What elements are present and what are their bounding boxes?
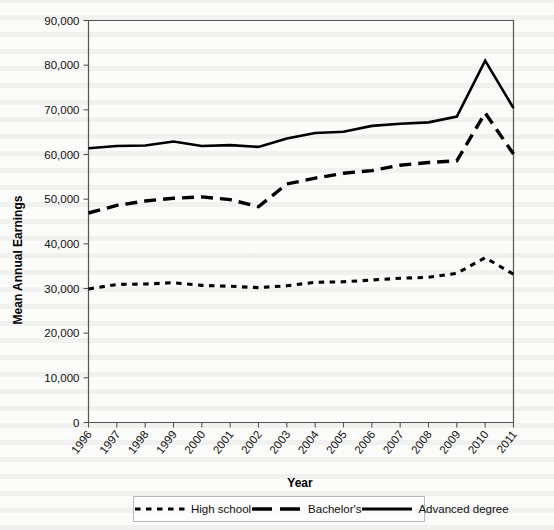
y-tick-label: 50,000 [44, 193, 79, 205]
y-tick-label: 30,000 [44, 283, 79, 295]
x-tick-label: 1998 [126, 428, 151, 456]
y-tick-label: 20,000 [44, 327, 79, 339]
y-tick-label: 60,000 [44, 149, 79, 161]
y-tick-label: 80,000 [44, 59, 79, 71]
x-axis-title: Year [287, 476, 313, 490]
x-tick-label: 2007 [381, 428, 406, 456]
x-tick-label: 2002 [239, 428, 264, 456]
legend-item-bachelors[interactable]: Bachelor's [251, 503, 361, 515]
legend-label-advanced-degree: Advanced degree [418, 503, 508, 515]
x-tick-label: 2000 [182, 428, 207, 456]
legend-swatch-dashed [251, 504, 303, 514]
y-axis-ticks: 010,00020,00030,00040,00050,00060,00070,… [44, 15, 88, 429]
x-tick-label: 2003 [267, 428, 292, 456]
legend-swatch-solid [361, 504, 413, 514]
y-tick-label: 40,000 [44, 238, 79, 250]
y-tick-label: 0 [73, 417, 79, 429]
x-tick-label: 1996 [69, 428, 94, 456]
series-bachelors [89, 113, 514, 213]
chart-svg: 010,00020,00030,00040,00050,00060,00070,… [0, 0, 554, 530]
y-tick-label: 70,000 [44, 104, 79, 116]
legend-label-high-school: High school [191, 503, 251, 515]
x-tick-label: 2005 [324, 428, 349, 456]
series-layer [89, 61, 514, 289]
x-tick-label: 2010 [466, 428, 491, 456]
x-tick-label: 2011 [494, 428, 519, 455]
y-axis-title: Mean Annual Earnings [11, 195, 25, 324]
chart-legend: High school Bachelor's Advanced degree [133, 496, 425, 522]
legend-label-bachelors: Bachelor's [308, 503, 361, 515]
series-high-school [89, 258, 514, 289]
x-tick-label: 1997 [97, 428, 122, 456]
x-tick-label: 2004 [296, 428, 322, 456]
x-tick-label: 2008 [409, 428, 434, 456]
legend-swatch-dotted [134, 504, 186, 514]
y-tick-label: 90,000 [44, 15, 79, 27]
legend-item-high-school[interactable]: High school [134, 503, 251, 515]
y-tick-label: 10,000 [44, 372, 79, 384]
legend-item-advanced-degree[interactable]: Advanced degree [361, 503, 508, 515]
earnings-line-chart: 010,00020,00030,00040,00050,00060,00070,… [0, 0, 554, 530]
x-tick-label: 2006 [352, 428, 377, 456]
x-tick-label: 1999 [154, 428, 179, 456]
x-axis-ticks: 1996199719981999200020012002200320042005… [69, 423, 519, 456]
series-advanced-degree [89, 61, 514, 149]
x-tick-label: 2001 [211, 428, 236, 456]
x-tick-label: 2009 [437, 428, 462, 456]
plot-frame [89, 21, 514, 423]
